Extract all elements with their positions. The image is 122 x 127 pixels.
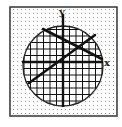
coordinate-diagram: y x bbox=[0, 0, 122, 127]
x-axis-label: x bbox=[104, 57, 111, 68]
y-axis-label: y bbox=[58, 6, 66, 17]
